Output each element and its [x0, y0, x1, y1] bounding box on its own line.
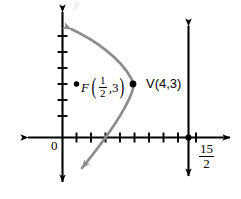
- focus-letter: F: [81, 81, 90, 94]
- focus-label: F ( 1 2 , 3 ): [81, 75, 126, 99]
- focus-x-numerator: 1: [99, 75, 107, 86]
- directrix-intercept-dot: [185, 134, 191, 140]
- y-axis-group: [58, 12, 68, 182]
- focus-y-value: 3: [112, 81, 119, 94]
- directrix-numerator: 15: [199, 142, 214, 155]
- origin-label: 0: [51, 139, 58, 152]
- directrix-fraction: 15 2: [199, 142, 214, 171]
- directrix-group: [185, 26, 191, 176]
- directrix-value-label: 15 2: [198, 142, 215, 171]
- directrix-denominator: 2: [202, 157, 211, 170]
- vertex-dot: [130, 81, 137, 88]
- y-axis-label: y: [74, 0, 78, 10]
- focus-x-fraction: 1 2: [99, 75, 107, 99]
- focus-open-paren: (: [91, 79, 96, 96]
- vertex-label: V(4,3): [146, 77, 181, 90]
- focus-x-denominator: 2: [99, 88, 107, 99]
- focus-close-paren: ): [120, 79, 125, 96]
- focus-dot: [74, 81, 79, 86]
